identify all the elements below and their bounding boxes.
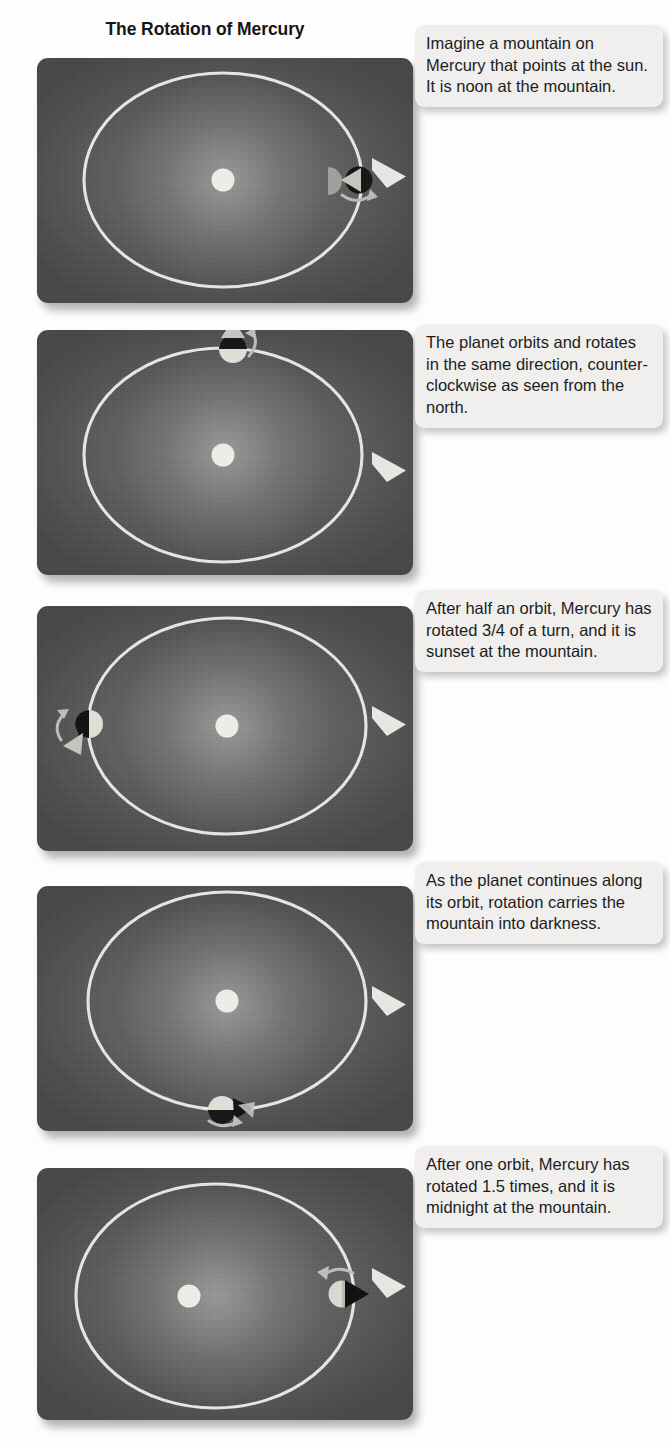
callout-1: Imagine a mountain on Mercury that point… — [415, 25, 663, 107]
orbit-panel-1 — [37, 58, 413, 303]
mountain-marker-icon — [221, 330, 245, 338]
orbit-panel-4 — [37, 886, 413, 1131]
sun-icon — [216, 990, 239, 1013]
page-title: The Rotation of Mercury — [0, 19, 410, 40]
rotation-arrow-icon — [57, 714, 64, 740]
callout-2: The planet orbits and rotates in the sam… — [415, 324, 663, 428]
callout-5: After one orbit, Mercury has rotated 1.5… — [415, 1146, 663, 1228]
orbit-panel-3 — [37, 606, 413, 851]
mountain-marker-icon — [345, 1280, 369, 1308]
sun-icon — [212, 444, 235, 467]
mercury-rotation-figure: The Rotation of Mercury — [0, 0, 670, 1444]
planet-marker-1 — [328, 167, 378, 202]
orbit-panel-5 — [37, 1168, 413, 1420]
sun-icon — [216, 715, 239, 738]
rotation-arrow-icon — [325, 1269, 353, 1274]
sun-glow-icon — [105, 1186, 325, 1406]
rotation-arrow-icon — [342, 195, 370, 200]
sun-icon — [178, 1285, 201, 1308]
planet-marker-3 — [57, 709, 103, 755]
sun-icon — [212, 169, 235, 192]
callout-3: After half an orbit, Mercury has rotated… — [415, 590, 663, 672]
mountain-marker-icon — [63, 733, 83, 755]
orbit-panel-2 — [37, 330, 413, 575]
callout-4: As the planet continues along its orbit,… — [415, 862, 663, 944]
